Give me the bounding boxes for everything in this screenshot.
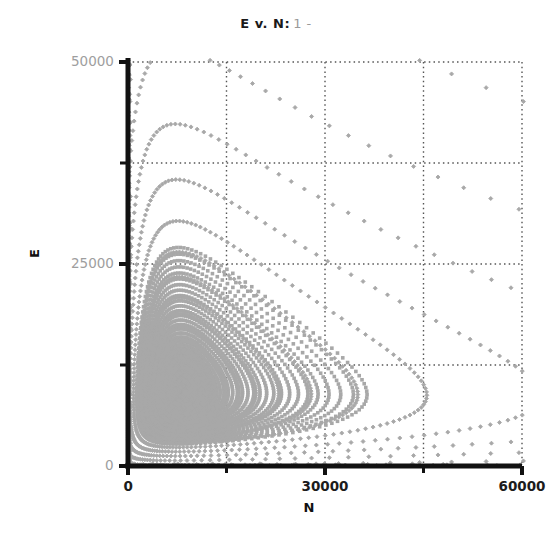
x-axis-label-text: N [304,500,315,515]
y-axis-label: E [27,234,42,274]
x-axis-label: N [0,500,552,515]
y-tick-label: 25000 [71,255,114,271]
y-tick-label: 0 [105,457,114,473]
scatter-plot-canvas [0,0,552,546]
x-tick-label: 60000 [499,478,546,494]
x-tick-label: 0 [124,478,133,494]
chart-root: E v. N:1 - 0300006000002500050000 N E [0,0,552,546]
data-points-layer [126,58,525,467]
y-tick-label: 50000 [71,53,114,69]
x-tick-label: 30000 [302,478,349,494]
